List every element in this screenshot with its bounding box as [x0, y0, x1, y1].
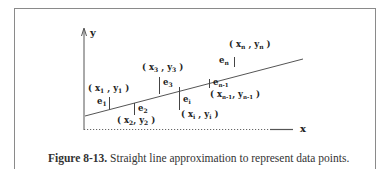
error-label-ei: ei	[183, 94, 191, 105]
caption-text: Straight line approximation to represent…	[107, 152, 349, 164]
figure-caption: Figure 8-13. Straight line approximation…	[48, 152, 368, 164]
caption-number: Figure 8-13.	[48, 152, 107, 164]
error-label-en: en	[219, 55, 229, 66]
error-label-e3: e3	[163, 77, 173, 88]
point-label-3: ( x3 , y3 )	[142, 62, 183, 73]
regression-diagram: y x ( x1 , y1 ) e1 ( x2, y2 ) e2 ( x3 , …	[0, 0, 391, 169]
error-label-e2: e2	[138, 103, 148, 114]
y-axis-label: y	[89, 27, 97, 38]
point-label-1: ( x1 , y1 )	[88, 83, 129, 94]
y-axis	[82, 28, 87, 130]
point-label-n-1: ( xn-1, yn-1 )	[210, 89, 260, 100]
point-label-2: ( x2, y2 )	[117, 115, 155, 126]
point-label-n: ( xn , yn )	[229, 39, 271, 50]
x-axis-label: x	[300, 123, 307, 134]
error-label-e1: e1	[97, 96, 107, 107]
point-label-i: ( xi , yi )	[181, 109, 218, 120]
